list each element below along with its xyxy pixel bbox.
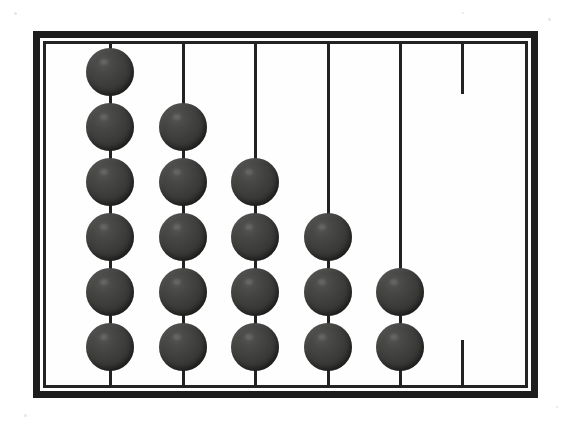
rod-6-bottom-stub [461, 340, 464, 385]
paper-speck [14, 12, 17, 15]
bead[interactable] [231, 268, 279, 316]
bead[interactable] [304, 268, 352, 316]
bead[interactable] [231, 323, 279, 371]
bead[interactable] [159, 268, 207, 316]
rod-6-top-stub [461, 44, 464, 94]
bead[interactable] [376, 323, 424, 371]
bead[interactable] [86, 323, 134, 371]
bead[interactable] [159, 158, 207, 206]
bead[interactable] [86, 158, 134, 206]
bead[interactable] [376, 268, 424, 316]
abacus-interior [46, 44, 525, 385]
bead[interactable] [159, 213, 207, 261]
paper-speck [462, 12, 464, 14]
bead[interactable] [86, 213, 134, 261]
bead[interactable] [86, 48, 134, 96]
bead[interactable] [231, 213, 279, 261]
bead[interactable] [304, 323, 352, 371]
paper-speck [556, 406, 558, 408]
paper-speck [24, 414, 27, 417]
bead[interactable] [304, 213, 352, 261]
bead[interactable] [86, 268, 134, 316]
bead[interactable] [159, 103, 207, 151]
paper-speck [548, 18, 551, 21]
bead[interactable] [231, 158, 279, 206]
abacus-frame [33, 31, 538, 398]
abacus-scene [0, 0, 571, 429]
bead[interactable] [86, 103, 134, 151]
bead[interactable] [159, 323, 207, 371]
